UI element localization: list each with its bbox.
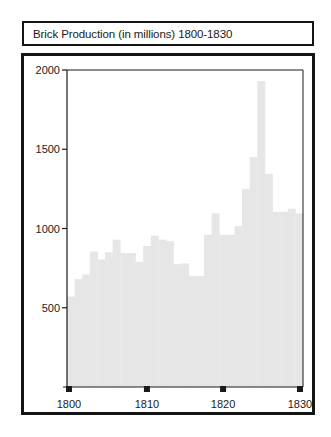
bar-1800 (67, 297, 75, 387)
bar-1803 (90, 251, 98, 387)
bar-1823 (242, 189, 250, 387)
bar-1830 (295, 213, 303, 387)
bar-1829 (288, 209, 296, 387)
y-tick-label-1000: 1000 (36, 223, 60, 235)
bar-1808 (128, 253, 136, 387)
x-tick-label-1810: 1810 (135, 398, 159, 410)
bar-1827 (273, 212, 281, 387)
bar-1810 (143, 246, 151, 387)
bar-1812 (158, 240, 166, 387)
bar-1819 (212, 213, 220, 387)
bar-1822 (234, 226, 242, 387)
x-ticks-group: 1800181018201830 (57, 386, 312, 410)
bar-1816 (189, 276, 197, 387)
bar-1801 (75, 279, 83, 387)
x-tick-1830 (297, 386, 303, 392)
bars-group (67, 81, 303, 387)
x-tick-1820 (220, 386, 226, 392)
x-tick-label-1800: 1800 (57, 398, 81, 410)
bar-1809 (136, 262, 144, 387)
x-tick-label-1830: 1830 (288, 398, 312, 410)
bar-1826 (265, 174, 273, 387)
y-tick-label-2000: 2000 (36, 64, 60, 76)
x-tick-1800 (66, 386, 72, 392)
bar-chart: 500100015002000 1800181018201830 (0, 0, 331, 437)
bar-1806 (113, 240, 121, 387)
bar-1811 (151, 236, 159, 387)
bar-1813 (166, 241, 174, 387)
bar-1817 (196, 276, 204, 387)
bar-1807 (120, 253, 128, 387)
bar-1828 (280, 212, 288, 387)
bar-1824 (250, 157, 258, 387)
bar-1815 (181, 263, 189, 387)
x-tick-label-1820: 1820 (211, 398, 235, 410)
y-ticks-group: 500100015002000 (36, 64, 67, 314)
bar-1804 (97, 259, 105, 387)
bar-1805 (105, 252, 113, 387)
bar-1820 (219, 235, 227, 387)
bar-1825 (257, 81, 265, 387)
bar-1814 (174, 264, 182, 387)
bar-1802 (82, 274, 90, 387)
y-tick-label-1500: 1500 (36, 143, 60, 155)
bar-1821 (227, 235, 235, 387)
y-tick-label-500: 500 (42, 302, 60, 314)
bar-1818 (204, 235, 212, 387)
x-tick-1810 (144, 386, 150, 392)
